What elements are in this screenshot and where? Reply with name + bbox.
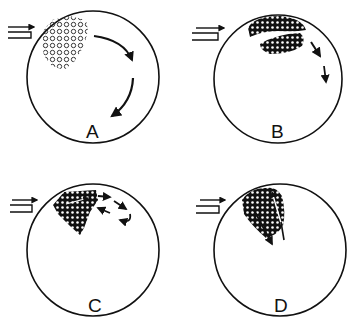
inlet-flow-icon [8,27,34,38]
panel-c: C [10,184,159,316]
panel-label-c: C [88,295,102,316]
panel-label-a: A [86,121,99,142]
panel-label-b: B [271,121,284,142]
arrow-return [98,208,110,213]
panel-a: A [8,11,159,143]
panel-b: B [192,15,342,143]
arrow-clockwise-1 [94,36,132,60]
particle-cluster [42,16,88,70]
inlet-flow-icon [196,200,225,213]
arrow-clockwise-2 [112,78,133,116]
arrow-right [98,196,110,197]
panel-label-d: D [274,295,288,316]
particle-cluster-lower [260,33,304,54]
diagram-canvas: A B C [0,0,356,325]
inlet-flow-icon [10,200,37,212]
panel-d: D [196,184,346,316]
arrow-down-1 [311,42,320,56]
particle-cluster [53,190,98,235]
arrow-down-right [114,201,126,209]
arrow-down-2 [324,66,326,82]
arrow-curl [120,214,130,221]
inlet-flow-icon [192,28,224,40]
